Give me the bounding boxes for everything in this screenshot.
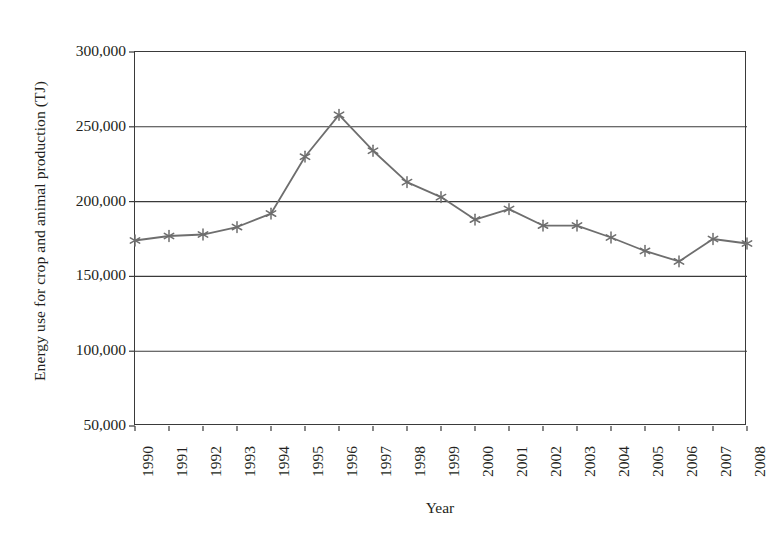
data-point-marker	[674, 256, 683, 267]
x-tick-label: 1996	[344, 446, 360, 477]
x-tick-label: 2008	[752, 446, 768, 477]
x-tick-label: 2002	[548, 446, 564, 477]
line-chart-figure: Energy use for crop and animal productio…	[0, 0, 784, 537]
data-point-marker	[504, 204, 513, 215]
y-tick-label: 50,000	[28, 417, 126, 433]
y-axis-tick-labels: 50,000100,000150,000200,000250,000300,00…	[28, 0, 126, 537]
x-tick-label: 1992	[208, 446, 224, 477]
x-tick-label: 1990	[140, 446, 156, 477]
y-tick-label: 200,000	[28, 193, 126, 209]
x-tick-label: 1991	[174, 446, 190, 477]
x-tick-label: 2000	[480, 446, 496, 477]
x-tick-label: 1997	[378, 446, 394, 477]
x-tick-label: 2004	[616, 446, 632, 477]
x-tick-label: 1994	[276, 446, 292, 477]
data-line	[135, 115, 747, 262]
x-tick-label: 2007	[718, 446, 734, 477]
data-point-marker	[606, 232, 615, 243]
data-point-marker	[436, 192, 445, 203]
x-tick-label: 2003	[582, 446, 598, 477]
y-tick-label: 150,000	[28, 267, 126, 283]
x-tick-label: 1999	[446, 446, 462, 477]
x-tick-label: 2005	[650, 446, 666, 477]
data-point-marker	[470, 214, 479, 225]
x-tick-label: 2006	[684, 446, 700, 477]
data-point-marker	[640, 246, 649, 257]
y-tick-label: 300,000	[28, 43, 126, 59]
x-axis-tick-labels: 1990199119921993199419951996199719981999…	[134, 430, 746, 494]
plot-area	[134, 51, 746, 425]
x-tick-label: 2001	[514, 446, 530, 477]
plot-svg	[135, 52, 747, 426]
y-tick-label: 250,000	[28, 118, 126, 134]
x-tick-label: 1995	[310, 446, 326, 477]
x-axis-title: Year	[134, 499, 746, 517]
y-tick-label: 100,000	[28, 342, 126, 358]
x-tick-label: 1998	[412, 446, 428, 477]
x-tick-label: 1993	[242, 446, 258, 477]
